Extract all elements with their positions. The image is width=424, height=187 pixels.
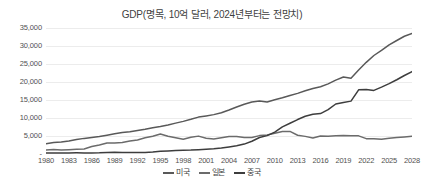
legend-label: 일본 (212, 168, 226, 177)
x-axis-tick-label: 2025 (381, 156, 397, 165)
legend-item[interactable]: 미국 (163, 168, 190, 177)
x-axis-tick-label: 1980 (38, 156, 54, 165)
x-axis-tick-label: 2022 (358, 156, 374, 165)
series-line (46, 33, 412, 143)
x-axis-tick-label: 2004 (221, 156, 237, 165)
chart-title: GDP(명목, 10억 달러, 2024년부터는 전망치) (0, 6, 424, 21)
legend-item[interactable]: 일본 (199, 168, 226, 177)
x-axis-tick-label: 1998 (175, 156, 191, 165)
x-axis: 1980198319861989199219951998200120042007… (46, 156, 412, 168)
plot-svg (46, 28, 412, 154)
x-axis-tick-label: 1986 (84, 156, 100, 165)
x-axis-tick-label: 2028 (404, 156, 420, 165)
y-axis-tick-label: 20,000 (0, 78, 42, 86)
x-axis-tick-label: 2001 (198, 156, 214, 165)
y-axis-tick-label: 5,000 (0, 132, 42, 140)
legend-line-icon (163, 172, 174, 174)
y-axis-tick-label: 15,000 (0, 96, 42, 104)
chart-legend: 미국일본중국 (0, 168, 424, 177)
legend-item[interactable]: 중국 (234, 168, 261, 177)
x-axis-tick-label: 1989 (107, 156, 123, 165)
series-line (46, 72, 412, 153)
y-axis-tick-label: 30,000 (0, 42, 42, 50)
legend-line-icon (234, 172, 245, 174)
legend-label: 미국 (176, 168, 190, 177)
y-axis-tick-label: 35,000 (0, 24, 42, 32)
legend-label: 중국 (247, 168, 261, 177)
plot-area (46, 28, 412, 154)
y-axis-tick-label: 10,000 (0, 114, 42, 122)
y-axis-tick-label: - (0, 150, 42, 158)
series-lines (46, 33, 412, 153)
x-axis-tick-label: 2019 (335, 156, 351, 165)
y-axis-tick-label: 25,000 (0, 60, 42, 68)
y-axis: 35,00030,00025,00020,00015,00010,0005,00… (0, 28, 42, 154)
x-axis-tick-label: 1992 (130, 156, 146, 165)
x-axis-tick-label: 2010 (267, 156, 283, 165)
x-axis-tick-label: 2013 (290, 156, 306, 165)
x-axis-tick-label: 1995 (152, 156, 168, 165)
gdp-line-chart: GDP(명목, 10억 달러, 2024년부터는 전망치) 35,00030,0… (0, 0, 424, 187)
x-axis-tick-label: 2007 (244, 156, 260, 165)
x-axis-tick-label: 2016 (313, 156, 329, 165)
legend-line-icon (199, 172, 210, 174)
x-axis-tick-label: 1983 (61, 156, 77, 165)
